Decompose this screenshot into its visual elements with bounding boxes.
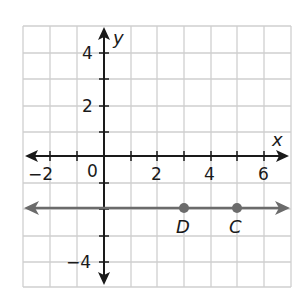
x-tick-4: 4 — [204, 164, 215, 184]
y-tick-minus-4: −4 — [66, 252, 91, 272]
coordinate-plane: y x 4 2 −4 −2 0 2 4 6 D C — [0, 0, 303, 298]
y-tick-4: 4 — [82, 43, 93, 63]
point-d — [179, 203, 189, 213]
origin-label: 0 — [87, 161, 98, 181]
x-axis — [25, 150, 289, 162]
y-axis-label: y — [112, 27, 124, 48]
point-d-label: D — [176, 216, 190, 237]
point-c — [232, 203, 242, 213]
x-tick-6: 6 — [258, 164, 269, 184]
x-tick-minus-2: −2 — [28, 164, 53, 184]
x-tick-2: 2 — [151, 164, 162, 184]
y-tick-2: 2 — [82, 96, 93, 116]
x-axis-label: x — [271, 129, 283, 150]
point-c-label: C — [229, 216, 242, 237]
